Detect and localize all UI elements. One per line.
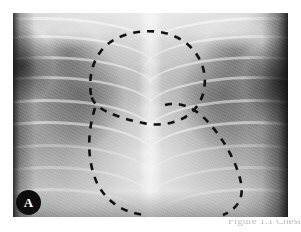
radiograph-plate xyxy=(13,13,288,217)
caption-fragment: Figure 1.1 Chest xyxy=(228,220,301,226)
caption-strip: Figure 1.1 Chest xyxy=(0,220,301,232)
film-grain-layer xyxy=(13,13,288,217)
panel-label-badge: A xyxy=(16,190,41,215)
figure-panel: A Figure 1.1 Chest xyxy=(0,0,301,232)
radiograph-image xyxy=(13,13,288,217)
